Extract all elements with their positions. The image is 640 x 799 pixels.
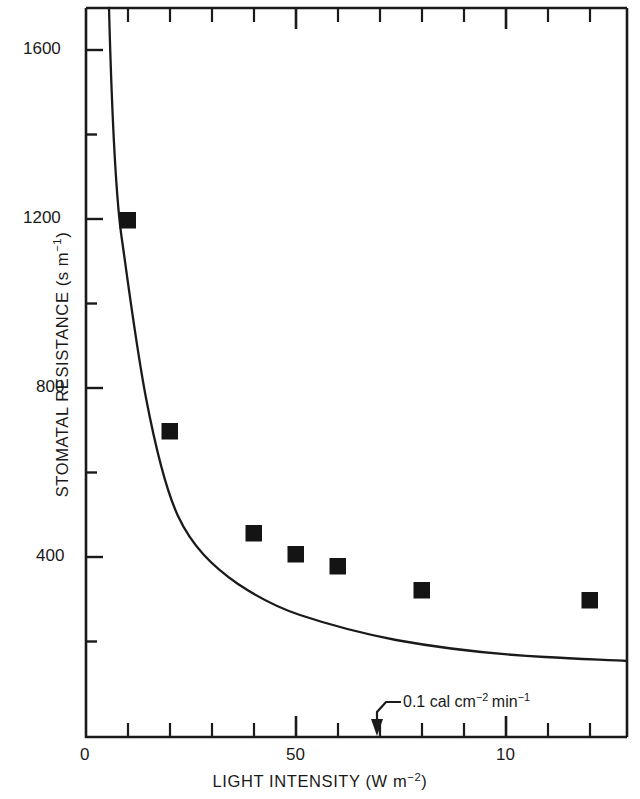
data-point	[246, 525, 263, 542]
data-point	[414, 582, 431, 599]
y-tick-label-1600: 1600	[23, 39, 61, 59]
data-point	[582, 592, 599, 609]
x-axis-minor-ticks	[128, 723, 590, 737]
y-axis-title: STOMATAL RESISTANCE (s m−1)	[53, 215, 72, 515]
data-point	[120, 212, 137, 229]
annotation-unit: min	[492, 693, 518, 710]
x-tick-label-100: 10	[496, 745, 515, 765]
x-axis-title-text: LIGHT INTENSITY (W m	[213, 772, 408, 790]
y-axis-title-exponent: −1	[51, 238, 63, 252]
data-markers	[120, 212, 599, 609]
annotation-arrowhead	[371, 719, 383, 736]
top-axis-major-ticks	[296, 8, 506, 29]
annotation-exponent-1: −2	[476, 691, 488, 703]
figure-stomatal-resistance-vs-light-intensity: 1600 1200 800 400 0 50 10 0.1 cal cm−2mi…	[0, 0, 640, 799]
x-tick-label-50: 50	[286, 745, 305, 765]
top-axis-minor-ticks	[128, 8, 590, 22]
data-point	[288, 546, 305, 563]
x-axis-title: LIGHT INTENSITY (W m−2)	[0, 772, 640, 791]
x-tick-label-0: 0	[80, 745, 89, 765]
y-axis-title-suffix: )	[53, 232, 71, 238]
annotation-exponent-2: −1	[518, 691, 530, 703]
chart-canvas	[0, 0, 640, 799]
plot-frame	[86, 8, 627, 737]
y-tick-label-400: 400	[36, 546, 64, 566]
fitted-curve	[109, 8, 627, 661]
annotation-value: 0.1 cal cm	[403, 693, 476, 710]
x-axis-title-suffix: )	[421, 772, 427, 790]
x-axis-title-exponent: −2	[407, 771, 421, 783]
light-intensity-annotation: 0.1 cal cm−2min−1	[403, 693, 530, 711]
y-axis-title-text: STOMATAL RESISTANCE (s m	[53, 252, 71, 497]
data-point	[162, 423, 179, 440]
data-point	[330, 558, 347, 575]
x-axis-major-ticks	[296, 716, 506, 737]
